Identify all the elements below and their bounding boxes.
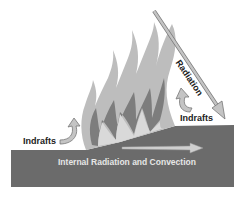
indrafts-left-label: Indrafts <box>23 136 56 146</box>
internal-radiation-label: Internal Radiation and Convection <box>58 157 196 167</box>
indrafts-right-arrow <box>176 88 192 112</box>
indrafts-right-label: Indrafts <box>180 113 213 123</box>
indrafts-left-arrow <box>60 118 80 144</box>
fire-diagram <box>0 0 244 198</box>
